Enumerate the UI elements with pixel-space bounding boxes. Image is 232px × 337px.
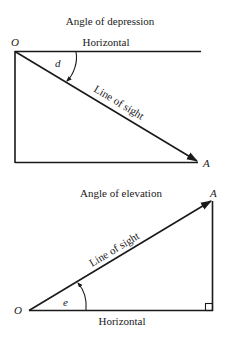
right-angle-marker bbox=[206, 304, 213, 311]
elevation-angle-arc bbox=[78, 283, 86, 310]
depression-title: Angle of depression bbox=[66, 15, 155, 27]
angles-diagram: Angle of depression O Horizontal d Line … bbox=[0, 0, 232, 337]
depression-target-label: A bbox=[202, 157, 210, 169]
elevation-target-label: A bbox=[209, 187, 217, 199]
elevation-line-of-sight-label: Line of sight bbox=[87, 229, 141, 268]
depression-angle-arc bbox=[67, 52, 77, 81]
depression-line-of-sight bbox=[15, 52, 197, 162]
depression-observer-label: O bbox=[11, 36, 19, 48]
depression-angle-label: d bbox=[55, 57, 61, 69]
elevation-horizontal-label: Horizontal bbox=[98, 315, 145, 327]
depression-diagram: Angle of depression O Horizontal d Line … bbox=[11, 15, 210, 169]
depression-horizontal-label: Horizontal bbox=[82, 36, 129, 48]
elevation-line-of-sight bbox=[29, 201, 211, 311]
elevation-title: Angle of elevation bbox=[80, 187, 162, 199]
elevation-observer-label: O bbox=[14, 304, 22, 316]
elevation-diagram: Angle of elevation A e O Line of sight H… bbox=[14, 187, 217, 327]
elevation-angle-label: e bbox=[63, 296, 68, 308]
